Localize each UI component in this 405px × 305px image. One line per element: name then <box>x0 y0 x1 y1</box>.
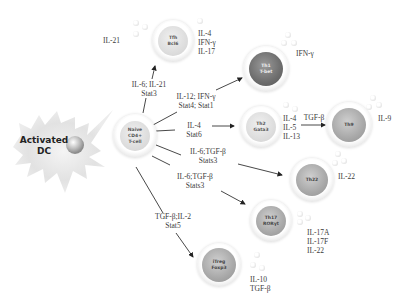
th1-tf: T-bet <box>260 69 273 75</box>
th22-inducers: IL-6;TGF-β Stats3 <box>179 147 237 165</box>
activated-dc: Activated DC <box>5 105 115 195</box>
cytokine-dot <box>297 219 303 225</box>
th17-cell: Th17 RORγt <box>250 200 292 242</box>
cytokine-dot <box>335 151 341 157</box>
th9-cell: Th9 <box>326 102 372 148</box>
cytokine-dot <box>332 160 338 166</box>
tfh-inducers: IL-6; IL-21 Stat3 <box>126 80 172 98</box>
tfh-cell: Tfh Bcl6 <box>152 20 194 62</box>
cytokine-dot <box>292 106 298 112</box>
th2-secreted-cytokines: IL-4 IL-5 IL-13 <box>283 114 300 141</box>
th17-secreted-cytokines: IL-17A IL-17F IL-22 <box>307 228 330 255</box>
tfh-secreted-il21: IL-21 <box>103 36 120 45</box>
naive-label-line3: T-cell <box>128 139 141 145</box>
naive-cd4-t-cell: Naive CD4+ T-cell <box>113 114 157 158</box>
th1-secreted: IFN-γ <box>296 49 314 58</box>
th1-cell: Th1 T-bet <box>243 46 289 92</box>
tfh-secreted-cytokines: IL-4 IFN-γ IL-17 <box>198 29 216 56</box>
cytokine-dot <box>283 102 289 108</box>
th2-tf: Gata3 <box>253 127 268 133</box>
cytokine-dot <box>285 32 291 38</box>
cytokine-dot <box>259 265 265 271</box>
th17-tf: RORγt <box>263 221 279 227</box>
treg-inducers: TGF-β;IL-2 Stat5 <box>148 212 198 230</box>
th9-inducer: TGF-β <box>301 113 327 122</box>
cytokine-dot <box>133 20 139 26</box>
cytokine-dot <box>297 211 303 217</box>
treg-tf: Foxp3 <box>211 265 226 271</box>
th9-name: Th9 <box>344 122 353 128</box>
tfh-tf: Bcl6 <box>168 41 179 47</box>
th2-inducers: IL-4 Stat6 <box>178 121 210 139</box>
treg-secreted-cytokines: IL-10 TGF-β <box>250 275 270 293</box>
dc-label-line2: DC <box>15 146 73 157</box>
th1-inducers: IL-12; IFN-γ Stat4; Stat1 <box>170 92 222 110</box>
cytokine-dot <box>366 104 372 110</box>
cytokine-dot <box>291 40 297 46</box>
cytokine-dot <box>370 95 376 101</box>
cytokine-dot <box>341 158 347 164</box>
th22-name: Th22 <box>306 177 319 183</box>
th22-secreted: IL-22 <box>338 172 355 181</box>
th22-cell: Th22 <box>290 158 334 202</box>
th17-inducers: IL-6;TGF-β Stats3 <box>168 172 222 190</box>
cytokine-dot <box>305 215 311 221</box>
cytokine-dot <box>142 24 148 30</box>
th9-secreted: IL-9 <box>378 114 391 123</box>
cytokine-dot <box>281 40 287 46</box>
treg-cell: iTreg Foxp3 <box>197 243 241 287</box>
cytokine-dot <box>250 262 256 268</box>
dc-label-line1: Activated <box>15 135 73 146</box>
cytokine-dot <box>197 18 203 24</box>
cytokine-dot <box>254 252 260 258</box>
th2-cell: Th2 Gata3 <box>240 106 282 148</box>
cytokine-dot <box>133 31 139 37</box>
cytokine-dot <box>376 102 382 108</box>
